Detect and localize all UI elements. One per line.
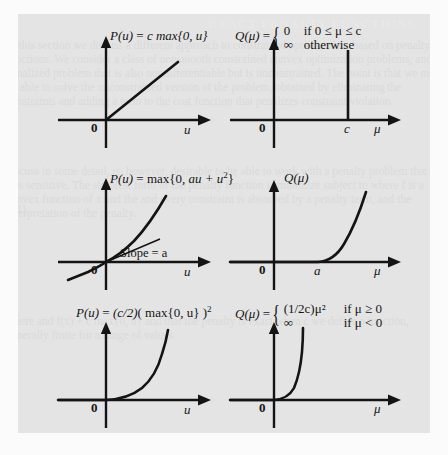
case-condition: if μ < 0 bbox=[344, 316, 383, 330]
case-row: 0if 0 ≤ μ ≤ c bbox=[284, 24, 362, 38]
formula-bot-left: P(u) = (c/2)( max{0, u} )2 bbox=[76, 304, 212, 321]
formula-rhs-italic: au + u bbox=[189, 171, 224, 186]
case-row: ∞if μ < 0 bbox=[284, 316, 383, 330]
origin-label-bot-left: 0 bbox=[91, 400, 98, 416]
case-condition: if 0 ≤ μ ≤ c bbox=[304, 24, 362, 38]
formula-lhs: P(u) bbox=[110, 28, 133, 43]
case-value: 0 bbox=[284, 24, 304, 38]
formula-equals: = bbox=[136, 28, 143, 43]
x-axis-arrow bbox=[388, 395, 401, 406]
formula-lhs: P(u) bbox=[110, 171, 133, 186]
plot-mid-right: Q(μ) 0 a μ bbox=[230, 162, 430, 294]
bleed-through-eq-tag: (6.1) bbox=[18, 202, 26, 216]
origin-label-mid-right: 0 bbox=[259, 262, 266, 278]
plot-bot-right: Q(μ) ={ (1/2c)μ²if μ ≥ 0 ∞if μ < 0 0 μ bbox=[230, 300, 430, 432]
origin-label-bot-right: 0 bbox=[259, 400, 266, 416]
x-axis-label-mid-right: μ bbox=[374, 263, 381, 279]
x-axis-arrow bbox=[388, 115, 401, 126]
tick-label-a: a bbox=[314, 263, 321, 279]
data-series-steep-quadratic bbox=[230, 328, 303, 400]
x-axis-label-top-right: μ bbox=[374, 121, 381, 137]
case-value: ∞ bbox=[284, 38, 304, 52]
data-series-p-linear bbox=[106, 62, 178, 120]
figure-panel: EXACT PENALTY FUNCTIONS In this section … bbox=[18, 14, 430, 433]
formula-lhs: P(u) bbox=[76, 305, 99, 320]
formula-rhs-pre: (c/2) bbox=[113, 305, 138, 320]
plot-bot-left: P(u) = (c/2)( max{0, u} )2 0 u bbox=[58, 300, 238, 432]
x-axis-arrow bbox=[198, 395, 211, 406]
formula-mid-right: Q(μ) bbox=[284, 170, 309, 186]
plot-top-left: P(u) = c max{0, u} 0 u bbox=[58, 20, 233, 150]
x-axis-label-mid-left: u bbox=[184, 264, 191, 280]
x-axis-arrow bbox=[388, 257, 401, 268]
case-row: ∞otherwise bbox=[284, 38, 362, 52]
formula-equals: = bbox=[102, 305, 109, 320]
case-value: (1/2c)μ² bbox=[284, 302, 344, 316]
cases-brace-icon: { bbox=[273, 309, 281, 319]
formula-top-right: Q(μ) ={ 0if 0 ≤ μ ≤ c ∞otherwise bbox=[235, 24, 361, 51]
y-axis-arrow bbox=[269, 180, 279, 192]
x-axis-label-bot-left: u bbox=[184, 402, 191, 418]
formula-lhs: Q(μ) bbox=[235, 306, 260, 321]
formula-rhs-exponent: 2 bbox=[207, 304, 212, 314]
formula-mid-left: P(u) = max{0, au + u2} bbox=[110, 170, 234, 187]
origin-label-mid-left: 0 bbox=[91, 262, 98, 278]
origin-label-top-left: 0 bbox=[91, 120, 98, 136]
formula-rhs: c max{0, u} bbox=[147, 28, 208, 43]
slope-annotation: Slope = a bbox=[120, 246, 167, 261]
cases-block: 0if 0 ≤ μ ≤ c ∞otherwise bbox=[284, 24, 362, 51]
bleed-line: where bbox=[18, 315, 34, 327]
plot-mid-left: P(u) = max{0, au + u2} Slope = a 0 u bbox=[58, 162, 238, 294]
case-condition: otherwise bbox=[304, 38, 355, 52]
formula-bot-right: Q(μ) ={ (1/2c)μ²if μ ≥ 0 ∞if μ < 0 bbox=[235, 302, 382, 329]
formula-rhs-mid: ( max{0, u} ) bbox=[138, 305, 208, 320]
x-axis-label-top-left: u bbox=[184, 122, 191, 138]
formula-equals: = bbox=[136, 171, 143, 186]
x-axis-arrow bbox=[198, 257, 211, 268]
data-series-q-convex bbox=[230, 192, 366, 262]
x-axis-arrow bbox=[198, 115, 211, 126]
plot-top-right: Q(μ) ={ 0if 0 ≤ μ ≤ c ∞otherwise 0 c μ bbox=[230, 20, 430, 150]
data-series-quadratic bbox=[68, 196, 166, 280]
data-series-quadratic-penalty bbox=[58, 330, 168, 400]
cases-brace-icon: { bbox=[273, 31, 281, 41]
formula-equals: = bbox=[263, 28, 270, 43]
y-axis-arrow bbox=[101, 322, 111, 334]
case-row: (1/2c)μ²if μ ≥ 0 bbox=[284, 302, 383, 316]
case-value: ∞ bbox=[284, 316, 344, 330]
origin-label-top-right: 0 bbox=[259, 120, 266, 136]
formula-rhs-pre: max{0, bbox=[147, 171, 189, 186]
x-axis-label-bot-right: μ bbox=[374, 401, 381, 417]
cases-block: (1/2c)μ²if μ ≥ 0 ∞if μ < 0 bbox=[284, 302, 383, 329]
tick-label-c: c bbox=[344, 121, 350, 137]
formula-lhs: Q(μ) bbox=[235, 28, 260, 43]
formula-equals: = bbox=[263, 306, 270, 321]
formula-top-left: P(u) = c max{0, u} bbox=[110, 28, 208, 44]
formula-lhs: Q(μ) bbox=[284, 170, 309, 185]
case-condition: if μ ≥ 0 bbox=[344, 302, 382, 316]
